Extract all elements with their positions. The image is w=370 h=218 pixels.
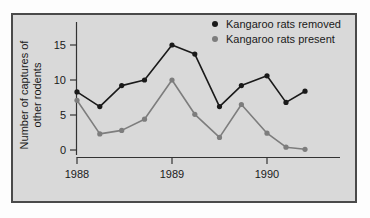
data-point [217,104,222,109]
line-chart: 15 10 5 0 1988 1989 1990 Number of captu… [0,0,370,218]
legend-label-removed: Kangaroo rats removed [226,18,341,30]
data-point [97,104,102,109]
y-axis-tick-labels: 15 10 5 0 [54,39,66,156]
y-axis-ticks [70,45,77,150]
series-layer [74,42,307,151]
chart-legend: Kangaroo rats removed Kangaroo rats pres… [212,18,341,45]
data-point [97,131,102,136]
y-axis-title: Number of captures of other rodents [18,40,43,150]
data-point [119,83,124,88]
y-tick-label-5: 5 [60,109,66,121]
data-point [169,77,174,82]
data-point [142,77,147,82]
x-axis-tick-labels: 1988 1989 1990 [65,168,279,180]
x-tick-label-1990: 1990 [255,168,279,180]
data-point [74,89,79,94]
data-point [119,128,124,133]
data-point [302,89,307,94]
series-line-present [77,80,305,149]
data-point [239,102,244,107]
data-point [217,135,222,140]
data-point [192,52,197,57]
data-point [264,131,269,136]
data-point [169,42,174,47]
data-point [264,73,269,78]
x-tick-label-1989: 1989 [160,168,184,180]
x-tick-label-1988: 1988 [65,168,89,180]
y-axis-title-line2: other rodents [31,62,43,127]
data-point [283,100,288,105]
data-point [239,83,244,88]
series-line-removed [77,45,305,107]
data-point [192,112,197,117]
y-tick-label-0: 0 [60,144,66,156]
y-tick-label-15: 15 [54,39,66,51]
data-point [302,147,307,152]
legend-marker-removed [212,21,218,27]
data-point [74,98,79,103]
data-point [142,117,147,122]
x-axis-ticks [77,158,267,165]
data-point [283,145,288,150]
legend-marker-present [212,36,218,42]
figure-container: 15 10 5 0 1988 1989 1990 Number of captu… [0,0,370,218]
y-axis-title-line1: Number of captures of [18,40,30,150]
legend-label-present: Kangaroo rats present [226,33,335,45]
y-tick-label-10: 10 [54,74,66,86]
